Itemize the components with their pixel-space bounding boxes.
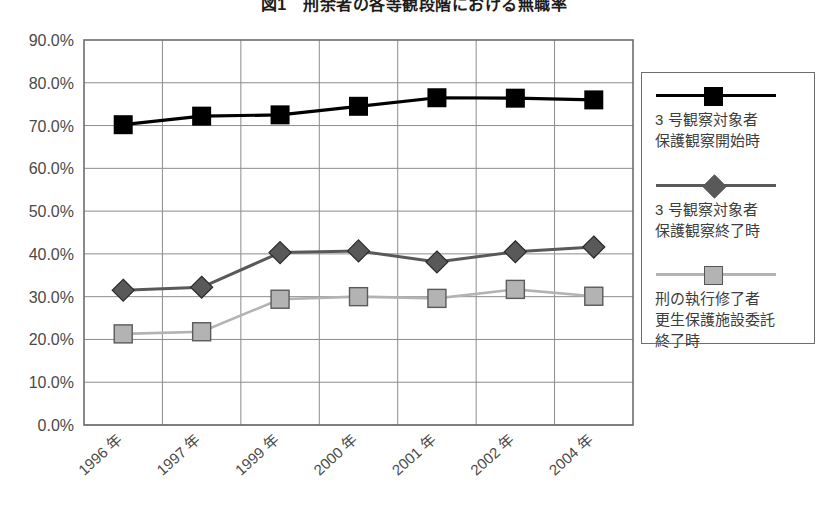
data-point-marker	[193, 323, 211, 341]
legend-label: 3 号観察対象者 保護観察終了時	[642, 199, 816, 241]
y-axis-tick-label: 80.0%	[29, 75, 74, 92]
x-axis-tick-label: 1997 年	[153, 431, 203, 479]
legend-entry: 3 号観察対象者 保護観察終了時	[642, 173, 816, 241]
y-axis-tick-label: 30.0%	[29, 289, 74, 306]
legend-marker-icon	[704, 87, 723, 106]
chart-legend: 3 号観察対象者 保護観察開始時 3 号観察対象者 保護観察終了時 刑の執行修了…	[641, 72, 815, 344]
legend-swatch-2	[656, 262, 776, 286]
y-axis-tick-label: 50.0%	[29, 203, 74, 220]
data-point-marker	[583, 236, 605, 258]
y-axis-tick-label: 0.0%	[38, 417, 74, 434]
data-point-marker	[585, 287, 603, 305]
y-axis-tick-label: 60.0%	[29, 160, 74, 177]
data-point-marker	[114, 325, 132, 343]
legend-label: 刑の執行修了者 更生保護施設委託 終了時	[642, 288, 816, 351]
data-point-marker	[350, 288, 368, 306]
data-point-marker	[506, 89, 525, 108]
x-axis-tick-label: 2002 年	[467, 431, 517, 479]
data-point-marker	[506, 280, 524, 298]
legend-entry: 3 号観察対象者 保護観察開始時	[642, 83, 816, 151]
legend-marker-icon	[702, 174, 726, 198]
data-point-marker	[271, 290, 289, 308]
data-point-marker	[348, 240, 370, 262]
data-point-marker	[192, 107, 211, 126]
legend-label: 3 号観察対象者 保護観察開始時	[642, 109, 816, 151]
data-point-marker	[114, 115, 133, 134]
data-point-marker	[191, 276, 213, 298]
y-axis-tick-label: 40.0%	[29, 246, 74, 263]
x-axis-tick-label: 2000 年	[310, 431, 360, 479]
data-point-marker	[112, 279, 134, 301]
data-point-marker	[504, 241, 526, 263]
y-axis-tick-label: 90.0%	[29, 32, 74, 49]
legend-swatch-0	[656, 83, 776, 107]
x-axis-tick-label: 2001 年	[389, 431, 439, 479]
y-axis-tick-label: 20.0%	[29, 331, 74, 348]
legend-swatch-1	[656, 173, 776, 197]
data-point-marker	[428, 289, 446, 307]
y-axis-tick-label: 70.0%	[29, 118, 74, 135]
x-axis-tick-label: 2004 年	[545, 431, 595, 479]
data-point-marker	[349, 97, 368, 116]
data-point-marker	[584, 90, 603, 109]
data-point-marker	[269, 242, 291, 264]
x-axis-tick-label: 1996 年	[75, 431, 125, 479]
legend-entry: 刑の執行修了者 更生保護施設委託 終了時	[642, 262, 816, 351]
y-axis-tick-label: 10.0%	[29, 374, 74, 391]
x-axis-tick-label: 1999 年	[232, 431, 282, 479]
legend-marker-icon	[704, 266, 723, 285]
data-point-marker	[271, 105, 290, 124]
chart-figure: 図1 刑余者の各等観段階における無職率 0.0%10.0%20.0%30.0%4…	[0, 0, 828, 506]
data-point-marker	[427, 88, 446, 107]
